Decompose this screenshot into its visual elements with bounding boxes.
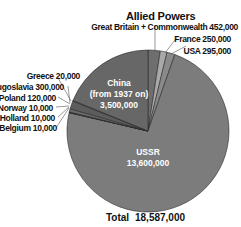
total-value: 18,587,000 [135, 212, 185, 223]
label-norway: Norway 10,000 [0, 103, 54, 113]
label-great-britain: Great Britain + Commonwealth 452,000 [91, 22, 238, 32]
label-france: France 250,000 [174, 34, 231, 44]
total-label: Total [106, 212, 129, 223]
label-belgium: Belgium 10,000 [0, 123, 58, 133]
pie-chart: Great Britain + Commonwealth 452,000 Fra… [0, 0, 241, 227]
label-china-period: (from 1937 on) [90, 89, 149, 99]
pie-slices [67, 50, 229, 212]
label-holland: Holland 10,000 [0, 113, 56, 123]
label-greece: Greece 20,000 [27, 71, 81, 81]
label-ussr-value: 13,600,000 [127, 158, 170, 168]
label-poland: Poland 120,000 [0, 93, 57, 103]
label-ussr-name: USSR [136, 147, 160, 157]
label-usa: USA 295,000 [184, 46, 232, 56]
label-yugoslavia: Yugoslavia 300,000 [0, 82, 65, 92]
label-china-name: China [107, 78, 131, 88]
label-china-value: 3,500,000 [100, 100, 138, 110]
